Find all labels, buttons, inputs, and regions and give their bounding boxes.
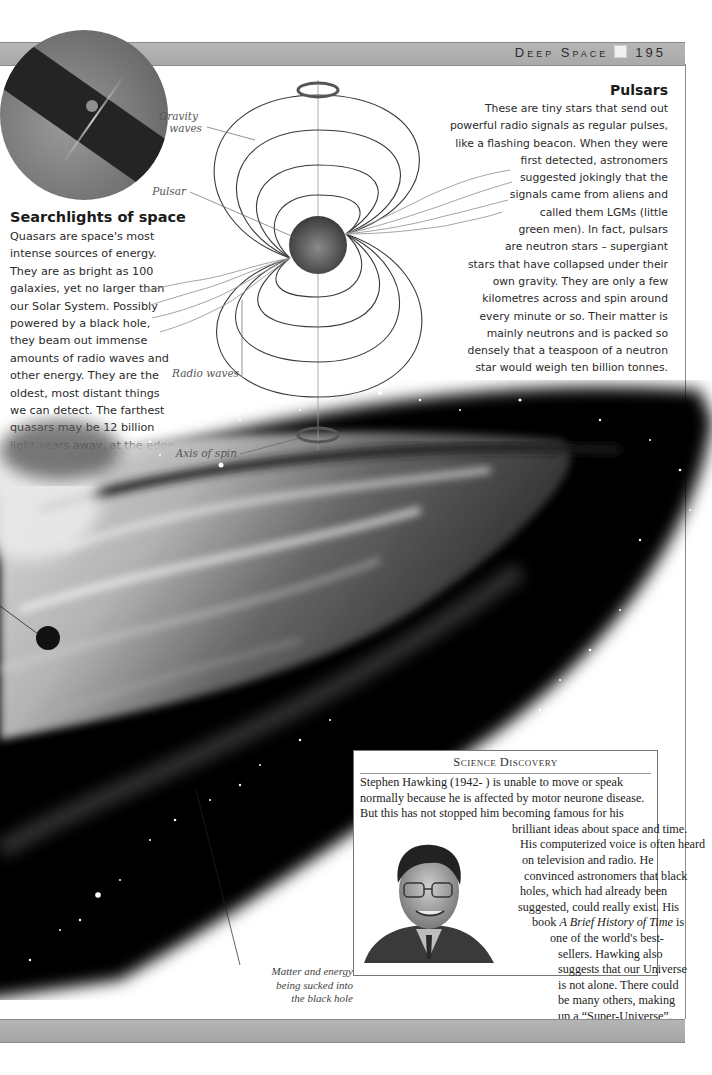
body-line: These are tiny stars that send out xyxy=(418,100,668,117)
text-line: But this has not stopped him becoming fa… xyxy=(354,806,654,822)
body-line: own gravity. They are only a few xyxy=(418,273,668,290)
section-name: Deep Space xyxy=(515,45,609,60)
caption-line: the black hole xyxy=(205,992,353,1006)
running-head: Deep Space195 xyxy=(515,45,666,60)
text-line: suggested, could really exist. His xyxy=(354,900,654,916)
book-title: A Brief History of Time xyxy=(559,915,673,929)
text-line: is not alone. There could xyxy=(354,978,654,994)
body-line: like a flashing beacon. When they were xyxy=(418,135,668,152)
body-line: called them LGMs (little xyxy=(418,204,668,221)
text-line: suggests that our Universe xyxy=(354,962,654,978)
body-line: stars that have collapsed under their xyxy=(418,256,668,273)
title-divider xyxy=(360,773,651,774)
text-fragment: book xyxy=(532,915,559,929)
page-number: 195 xyxy=(635,45,666,60)
text-line: on television and radio. He xyxy=(354,853,654,869)
text-line: one of the world's best- xyxy=(354,931,654,947)
body-line: densely that a teaspoon of a neutron xyxy=(418,342,668,359)
body-line: kilometres across and spin around xyxy=(418,290,668,307)
text-line: normally because he is affected by motor… xyxy=(354,791,654,807)
gravity-waves-label-line2: waves xyxy=(169,122,202,134)
text-fragment: is xyxy=(673,915,684,929)
black-hole-caption: Matter and energy being sucked into the … xyxy=(205,965,353,1006)
pulsars-body: These are tiny stars that send out power… xyxy=(418,100,668,377)
gravity-waves-label-line1: Gravity xyxy=(159,110,199,122)
body-line: every minute or so. Their matter is xyxy=(418,308,668,325)
pulsars-heading: Pulsars xyxy=(610,82,668,98)
text-line: be many others, making xyxy=(354,993,654,1009)
text-line: brilliant ideas about space and time. xyxy=(354,822,654,838)
body-line: green men). In fact, pulsars xyxy=(418,221,668,238)
caption-line: being sucked into xyxy=(205,979,353,993)
pulsar-star xyxy=(289,216,347,274)
caption-line: Matter and energy xyxy=(205,965,353,979)
text-line: book A Brief History of Time is xyxy=(354,915,654,931)
radio-waves-label: Radio waves xyxy=(171,367,240,379)
body-line: mainly neutrons and is packed so xyxy=(418,325,668,342)
text-line: Stephen Hawking (1942- ) is unable to mo… xyxy=(354,775,654,791)
body-line: star would weigh ten billion tonnes. xyxy=(418,359,668,376)
quasar-core xyxy=(86,100,98,112)
text-line: convinced astronomers that black xyxy=(354,869,654,885)
axis-of-spin-label: Axis of spin xyxy=(175,447,238,459)
footer-bar xyxy=(0,1019,685,1043)
body-line: suggested jokingly that the xyxy=(418,169,668,186)
pulsar-label: Pulsar xyxy=(151,185,187,197)
science-discovery-box: Science Discovery Stephen Hawking (1942-… xyxy=(353,750,658,976)
square-page-icon xyxy=(614,45,627,58)
science-discovery-title: Science Discovery xyxy=(354,755,657,770)
body-line: signals came from aliens and xyxy=(418,186,668,203)
body-line: are neutron stars – supergiant xyxy=(418,238,668,255)
text-line: sellers. Hawking also xyxy=(354,947,654,963)
body-line: first detected, astronomers xyxy=(418,152,668,169)
body-line: powerful radio signals as regular pulses… xyxy=(418,117,668,134)
text-line: His computerized voice is often heard xyxy=(354,837,654,853)
science-discovery-text: Stephen Hawking (1942- ) is unable to mo… xyxy=(354,775,654,1025)
text-line: holes, which had already been xyxy=(354,884,654,900)
